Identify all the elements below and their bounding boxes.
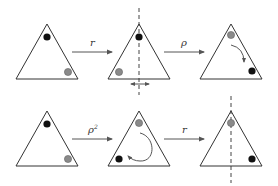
- arrow-r-1: r: [72, 37, 112, 52]
- black-dot: [135, 33, 142, 40]
- triangle-4: [16, 111, 78, 166]
- triangle-6: [200, 96, 262, 183]
- rotation-arrow-icon: [128, 133, 152, 161]
- gray-dot: [115, 68, 122, 75]
- arrow-r-2: r: [164, 124, 204, 139]
- gray-dot: [135, 119, 142, 126]
- arrow-label-rho-squared: ρ2: [87, 123, 98, 135]
- triangle-5: [108, 111, 170, 166]
- rotation-arrow-icon: [231, 45, 244, 62]
- arrow-label-r: r: [182, 124, 188, 135]
- black-dot: [248, 67, 255, 74]
- black-dot: [115, 155, 122, 162]
- symmetry-diagram: r ρ ρ2 r: [0, 0, 278, 186]
- gray-dot: [64, 68, 71, 75]
- triangle-3: [200, 24, 262, 79]
- black-dot: [248, 155, 255, 162]
- triangle-1: [16, 24, 78, 79]
- arrow-rho-squared: ρ2: [72, 123, 112, 139]
- arrow-label-rho: ρ: [180, 37, 187, 48]
- arrow-rho-1: ρ: [164, 37, 204, 52]
- gray-dot: [227, 119, 234, 126]
- triangle-2: [108, 8, 170, 95]
- arrow-label-r: r: [90, 37, 96, 48]
- black-dot: [43, 120, 50, 127]
- black-dot: [43, 33, 50, 40]
- gray-dot: [64, 155, 71, 162]
- gray-dot: [227, 31, 234, 38]
